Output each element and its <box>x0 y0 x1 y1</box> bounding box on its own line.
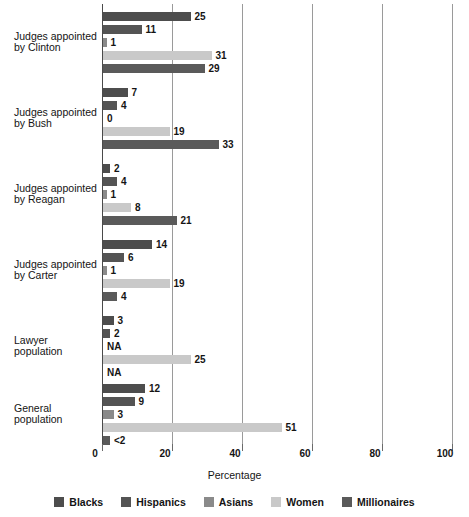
tick-label-60: 60 <box>285 448 325 459</box>
legend-swatch-icon <box>121 497 131 507</box>
bar-value-label: 9 <box>139 397 145 406</box>
na-label: NA <box>107 342 121 351</box>
bar <box>103 316 114 325</box>
bar-value-label: 1 <box>111 266 117 275</box>
category-label-line2: by Bush <box>14 118 100 130</box>
bar <box>103 12 191 21</box>
bar-value-label: 1 <box>111 190 117 199</box>
bar-value-label: 1 <box>111 38 117 47</box>
category-label: Judges appointedby Bush <box>14 107 100 130</box>
legend-swatch-icon <box>342 497 352 507</box>
category-label: Generalpopulation <box>14 403 100 426</box>
category-label-line2: by Carter <box>14 270 100 282</box>
gridline-60 <box>312 4 313 444</box>
bar-value-label: 8 <box>135 203 141 212</box>
legend-label: Blacks <box>69 496 103 508</box>
bar <box>103 423 282 432</box>
legend-swatch-icon <box>271 497 281 507</box>
legend-item[interactable]: Blacks <box>54 496 103 508</box>
x-axis-title: Percentage <box>0 469 469 481</box>
bar-value-label: 29 <box>209 64 220 73</box>
na-label: NA <box>107 368 121 377</box>
bar <box>103 127 170 136</box>
bar <box>103 292 117 301</box>
bar-value-label: 51 <box>286 423 297 432</box>
tick-label-80: 80 <box>355 448 395 459</box>
bar-value-label: 19 <box>174 279 185 288</box>
bar-value-label: 25 <box>195 12 206 21</box>
bar <box>103 384 145 393</box>
bar-value-label: 12 <box>149 384 160 393</box>
bar-value-label: 6 <box>128 253 134 262</box>
legend-swatch-icon <box>54 497 64 507</box>
bar <box>103 64 205 73</box>
legend-label: Hispanics <box>136 496 186 508</box>
category-label-line2: population <box>14 414 100 426</box>
legend-swatch-icon <box>204 497 214 507</box>
bar <box>103 164 110 173</box>
bar-chart: 2511131297401933241821146119432NA25NA129… <box>0 0 469 517</box>
legend-item[interactable]: Millionaires <box>342 496 415 508</box>
bar-value-label: 33 <box>223 140 234 149</box>
gridline-100 <box>452 4 453 444</box>
bar-value-label: 19 <box>174 127 185 136</box>
legend-label: Millionaires <box>357 496 415 508</box>
category-label: Judges appointedby Reagan <box>14 183 100 206</box>
gridline-40 <box>242 4 243 444</box>
bar-value-label: 0 <box>107 114 113 123</box>
bar-value-label: 3 <box>118 316 124 325</box>
bar <box>103 355 191 364</box>
category-label-line2: population <box>14 346 100 358</box>
tick-label-40: 40 <box>215 448 255 459</box>
bar <box>103 279 170 288</box>
legend-item[interactable]: Hispanics <box>121 496 186 508</box>
tick-label-0: 0 <box>75 448 115 459</box>
bar <box>103 177 117 186</box>
bar-value-label: 4 <box>121 177 127 186</box>
bar-value-label: 4 <box>121 101 127 110</box>
bar <box>103 253 124 262</box>
bar-value-label: 2 <box>114 329 120 338</box>
bar <box>103 51 212 60</box>
tick-label-100: 100 <box>425 448 465 459</box>
bar <box>103 203 131 212</box>
bar <box>103 436 110 445</box>
bar <box>103 410 114 419</box>
bar-value-label: 14 <box>156 240 167 249</box>
category-label: Judges appointedby Carter <box>14 259 100 282</box>
bar <box>103 101 117 110</box>
bar-value-label: 7 <box>132 88 138 97</box>
bar-value-label: 2 <box>114 164 120 173</box>
legend-label: Women <box>286 496 324 508</box>
bar <box>103 240 152 249</box>
bar <box>103 397 135 406</box>
bar <box>103 88 128 97</box>
plot-area: 2511131297401933241821146119432NA25NA129… <box>102 4 452 444</box>
bar <box>103 329 110 338</box>
legend: BlacksHispanicsAsiansWomenMillionaires <box>0 496 469 508</box>
bar <box>103 25 142 34</box>
bar-value-label: 21 <box>181 216 192 225</box>
gridline-80 <box>382 4 383 444</box>
category-label-line2: by Reagan <box>14 194 100 206</box>
bar-value-label: 3 <box>118 410 124 419</box>
category-label-line2: by Clinton <box>14 42 100 54</box>
bar-value-label: 25 <box>195 355 206 364</box>
bar-value-label: <2 <box>114 436 125 445</box>
legend-label: Asians <box>219 496 253 508</box>
bar <box>103 266 107 275</box>
bar-value-label: 4 <box>121 292 127 301</box>
bar <box>103 38 107 47</box>
bar-value-label: 31 <box>216 51 227 60</box>
bar <box>103 216 177 225</box>
category-label: Judges appointedby Clinton <box>14 31 100 54</box>
legend-item[interactable]: Asians <box>204 496 253 508</box>
bar-value-label: 11 <box>146 25 157 34</box>
category-label: Lawyerpopulation <box>14 335 100 358</box>
bar <box>103 140 219 149</box>
legend-item[interactable]: Women <box>271 496 324 508</box>
bar <box>103 190 107 199</box>
tick-label-20: 20 <box>145 448 185 459</box>
